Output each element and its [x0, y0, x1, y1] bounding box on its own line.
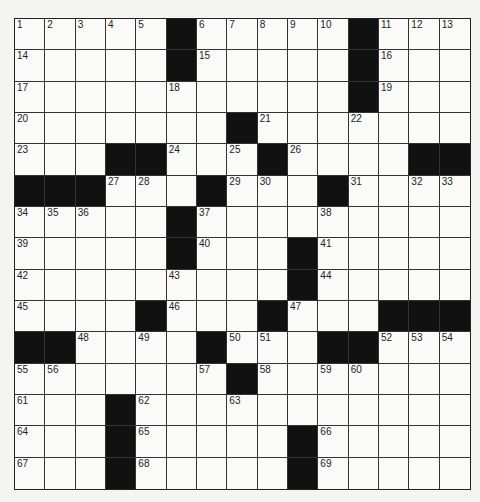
crossword-cell[interactable]: 54 — [440, 332, 470, 363]
crossword-cell[interactable] — [379, 176, 409, 207]
crossword-cell[interactable] — [379, 426, 409, 457]
crossword-cell[interactable] — [76, 270, 106, 301]
crossword-cell[interactable] — [440, 207, 470, 238]
crossword-cell[interactable]: 28 — [136, 176, 166, 207]
crossword-cell[interactable] — [440, 270, 470, 301]
crossword-cell[interactable] — [288, 113, 318, 144]
crossword-cell[interactable] — [167, 426, 197, 457]
crossword-cell[interactable] — [227, 50, 257, 81]
crossword-cell[interactable] — [349, 238, 379, 269]
crossword-cell[interactable]: 7 — [227, 19, 257, 50]
crossword-cell[interactable] — [379, 395, 409, 426]
crossword-cell[interactable] — [258, 395, 288, 426]
crossword-cell[interactable] — [227, 458, 257, 489]
crossword-cell[interactable]: 44 — [318, 270, 348, 301]
crossword-cell[interactable] — [45, 395, 75, 426]
crossword-cell[interactable] — [76, 144, 106, 175]
crossword-cell[interactable]: 22 — [349, 113, 379, 144]
crossword-cell[interactable] — [349, 395, 379, 426]
crossword-cell[interactable] — [440, 458, 470, 489]
crossword-cell[interactable]: 63 — [227, 395, 257, 426]
crossword-cell[interactable] — [136, 50, 166, 81]
crossword-cell[interactable] — [167, 458, 197, 489]
crossword-cell[interactable]: 58 — [258, 364, 288, 395]
crossword-cell[interactable] — [288, 332, 318, 363]
crossword-cell[interactable] — [349, 426, 379, 457]
crossword-cell[interactable] — [197, 113, 227, 144]
crossword-cell[interactable]: 52 — [379, 332, 409, 363]
crossword-cell[interactable] — [45, 238, 75, 269]
crossword-cell[interactable]: 14 — [15, 50, 45, 81]
crossword-cell[interactable] — [288, 207, 318, 238]
crossword-cell[interactable]: 60 — [349, 364, 379, 395]
crossword-cell[interactable]: 17 — [15, 82, 45, 113]
crossword-cell[interactable]: 41 — [318, 238, 348, 269]
crossword-cell[interactable] — [379, 113, 409, 144]
crossword-cell[interactable]: 51 — [258, 332, 288, 363]
crossword-cell[interactable]: 18 — [167, 82, 197, 113]
crossword-cell[interactable] — [288, 176, 318, 207]
crossword-cell[interactable] — [197, 458, 227, 489]
crossword-cell[interactable] — [227, 238, 257, 269]
crossword-cell[interactable] — [167, 332, 197, 363]
crossword-cell[interactable] — [258, 50, 288, 81]
crossword-cell[interactable] — [136, 207, 166, 238]
crossword-cell[interactable]: 66 — [318, 426, 348, 457]
crossword-cell[interactable] — [76, 238, 106, 269]
crossword-cell[interactable]: 33 — [440, 176, 470, 207]
crossword-cell[interactable] — [440, 113, 470, 144]
crossword-cell[interactable] — [76, 458, 106, 489]
crossword-cell[interactable] — [76, 301, 106, 332]
crossword-cell[interactable]: 55 — [15, 364, 45, 395]
crossword-cell[interactable]: 5 — [136, 19, 166, 50]
crossword-cell[interactable] — [106, 82, 136, 113]
crossword-cell[interactable]: 24 — [167, 144, 197, 175]
crossword-cell[interactable]: 49 — [136, 332, 166, 363]
crossword-cell[interactable] — [409, 50, 439, 81]
crossword-cell[interactable] — [349, 144, 379, 175]
crossword-cell[interactable] — [106, 50, 136, 81]
crossword-cell[interactable] — [318, 395, 348, 426]
crossword-cell[interactable] — [258, 458, 288, 489]
crossword-cell[interactable] — [76, 113, 106, 144]
crossword-cell[interactable]: 20 — [15, 113, 45, 144]
crossword-cell[interactable] — [136, 113, 166, 144]
crossword-cell[interactable]: 32 — [409, 176, 439, 207]
crossword-cell[interactable] — [409, 207, 439, 238]
crossword-cell[interactable] — [440, 50, 470, 81]
crossword-cell[interactable]: 34 — [15, 207, 45, 238]
crossword-cell[interactable] — [167, 395, 197, 426]
crossword-cell[interactable] — [167, 176, 197, 207]
crossword-cell[interactable]: 31 — [349, 176, 379, 207]
crossword-cell[interactable] — [45, 113, 75, 144]
crossword-cell[interactable]: 62 — [136, 395, 166, 426]
crossword-cell[interactable] — [76, 82, 106, 113]
crossword-cell[interactable]: 35 — [45, 207, 75, 238]
crossword-cell[interactable] — [197, 270, 227, 301]
crossword-cell[interactable] — [227, 301, 257, 332]
crossword-cell[interactable]: 53 — [409, 332, 439, 363]
crossword-cell[interactable] — [197, 395, 227, 426]
crossword-cell[interactable] — [136, 270, 166, 301]
crossword-cell[interactable]: 47 — [288, 301, 318, 332]
crossword-cell[interactable]: 56 — [45, 364, 75, 395]
crossword-cell[interactable] — [318, 301, 348, 332]
crossword-cell[interactable] — [409, 426, 439, 457]
crossword-cell[interactable] — [409, 364, 439, 395]
crossword-cell[interactable] — [379, 144, 409, 175]
crossword-cell[interactable]: 37 — [197, 207, 227, 238]
crossword-cell[interactable]: 26 — [288, 144, 318, 175]
crossword-cell[interactable] — [440, 395, 470, 426]
crossword-cell[interactable]: 16 — [379, 50, 409, 81]
crossword-cell[interactable]: 11 — [379, 19, 409, 50]
crossword-cell[interactable] — [45, 144, 75, 175]
crossword-cell[interactable] — [106, 207, 136, 238]
crossword-cell[interactable] — [136, 82, 166, 113]
crossword-cell[interactable] — [45, 426, 75, 457]
crossword-cell[interactable]: 4 — [106, 19, 136, 50]
crossword-cell[interactable] — [440, 238, 470, 269]
crossword-cell[interactable]: 68 — [136, 458, 166, 489]
crossword-cell[interactable]: 45 — [15, 301, 45, 332]
crossword-cell[interactable]: 65 — [136, 426, 166, 457]
crossword-cell[interactable] — [288, 364, 318, 395]
